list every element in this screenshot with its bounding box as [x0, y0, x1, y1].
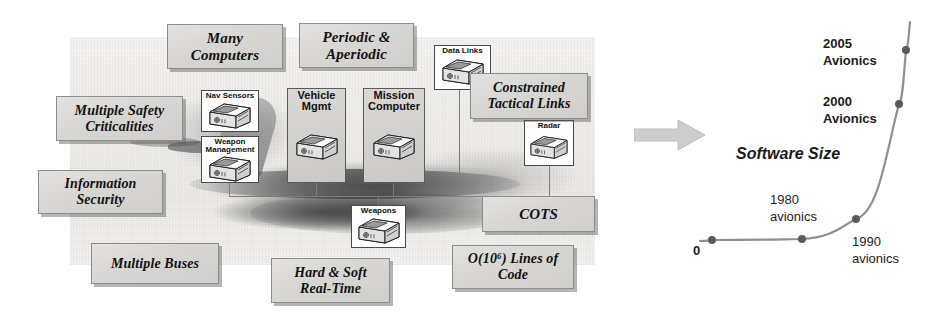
component-nav-sensors: Nav Sensors [201, 90, 259, 132]
callout-label-line: Multiple Safety [75, 103, 165, 119]
component-label: Nav Sensors [204, 91, 256, 100]
lru-chassis-icon [207, 101, 253, 131]
callout-multiple-buses: Multiple Buses [91, 243, 219, 284]
callout-label-line: Many [191, 30, 259, 47]
callout-lines-of-code: O(10⁶) Lines ofCode [452, 245, 574, 289]
wire-radar-drop [549, 166, 550, 197]
chart-point-dot-2005 [902, 46, 910, 54]
wire-nav-bus [229, 183, 230, 197]
wire-datalinks-drop [459, 90, 460, 196]
callout-label-line: COTS [519, 206, 558, 223]
callout-label-line: Tactical Links [488, 96, 571, 112]
component-chassis-icon [525, 130, 573, 165]
callout-label-line: Hard & Soft [294, 265, 367, 281]
chart-point-dot-0 [708, 236, 716, 244]
chart-label-title: Software Size [736, 143, 840, 164]
callout-label-line: Real-Time [294, 281, 367, 297]
callout-label-line: Computers [191, 47, 259, 64]
lru-chassis-icon [371, 132, 417, 162]
component-label: Weapon Management [204, 137, 257, 154]
callout-periodic-aperiodic: Periodic &Aperiodic [299, 23, 414, 68]
component-mission-computer: Mission Computer [363, 88, 425, 183]
callout-label-line: Criticalities [75, 119, 165, 135]
component-chassis-icon [352, 215, 405, 247]
component-chassis-icon [288, 112, 345, 182]
component-weapons: Weapons [351, 205, 406, 248]
chart-label-2000: 2000 Avionics [823, 93, 877, 127]
callout-label-line: Security [65, 192, 137, 208]
lru-chassis-icon [356, 216, 402, 246]
lru-chassis-icon [294, 132, 340, 162]
component-label: Data Links [440, 46, 484, 55]
callout-constrained-links: ConstrainedTactical Links [470, 73, 588, 119]
chart-label-1990: 1990 avionics [852, 233, 899, 267]
software-size-chart: 2005 Avionics2000 AvionicsSoftware Size1… [688, 14, 938, 308]
chart-label-1980: 1980 avionics [770, 191, 817, 225]
component-chassis-icon [202, 154, 258, 183]
callout-many-computers: ManyComputers [167, 24, 283, 69]
lru-chassis-icon [207, 154, 253, 183]
component-radar: Radar [524, 120, 574, 166]
callout-label-line: Constrained [488, 80, 571, 96]
wire-vehicle-bus [316, 183, 317, 197]
chart-label-2005: 2005 Avionics [823, 35, 877, 69]
figure-root: Nav Sensors Weapon Management Vehicle Mg… [0, 0, 946, 322]
callout-label-line: Information [65, 176, 137, 192]
callout-multiple-safety: Multiple SafetyCriticalities [56, 96, 183, 141]
component-chassis-icon [202, 100, 258, 131]
wire-mission-bus [393, 183, 394, 197]
wire-weapons-drop [378, 196, 379, 205]
component-label: Radar [536, 121, 563, 130]
callout-label-line: Multiple Buses [111, 256, 199, 272]
callout-label-line: O(10⁶) Lines of [468, 251, 558, 267]
lru-chassis-icon [528, 134, 570, 161]
component-label: Mission Computer [366, 89, 422, 112]
callout-label-line: Periodic & [322, 29, 390, 46]
callout-label-line: Aperiodic [322, 46, 390, 63]
callout-cots: COTS [482, 196, 595, 232]
callout-label-line: Code [468, 267, 558, 283]
chart-point-dot-1980 [798, 235, 806, 243]
component-chassis-icon [364, 112, 424, 182]
component-label: Vehicle Mgmt [296, 89, 338, 112]
callout-information-security: InformationSecurity [38, 170, 163, 214]
chart-label-zero: 0 [693, 242, 700, 259]
wire-main-bus [229, 196, 459, 197]
component-weapon-management: Weapon Management [201, 136, 259, 183]
component-vehicle-mgmt: Vehicle Mgmt [287, 88, 346, 183]
component-label: Weapons [359, 206, 398, 215]
callout-hard-soft-realtime: Hard & SoftReal-Time [271, 258, 390, 303]
chart-point-dot-2000 [895, 100, 903, 108]
chart-point-dot-1990 [852, 215, 860, 223]
